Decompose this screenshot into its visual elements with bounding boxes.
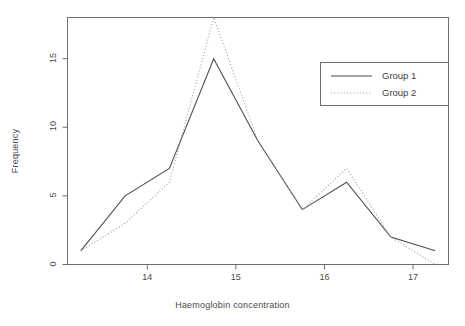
x-tick-label: 17: [408, 272, 418, 282]
data-series-group: [81, 18, 435, 265]
x-tick-label: 16: [319, 272, 329, 282]
legend-label-2: Group 2: [382, 87, 416, 98]
y-tick-label: 15: [48, 48, 58, 68]
y-tick-label: 0: [48, 254, 58, 274]
frequency-polygon-chart: Haemoglobin concentration Frequency 1415…: [0, 0, 465, 326]
legend-label-1: Group 1: [382, 70, 416, 81]
x-axis-title: Haemoglobin concentration: [0, 300, 465, 310]
legend-box: [321, 63, 449, 106]
y-tick-label: 5: [48, 185, 58, 205]
y-axis-ticks: [63, 59, 68, 265]
y-tick-label: 10: [48, 116, 58, 136]
x-axis-ticks: [147, 265, 413, 270]
x-tick-label: 15: [231, 272, 241, 282]
x-tick-label: 14: [142, 272, 152, 282]
y-axis-title: Frequency: [10, 106, 20, 196]
